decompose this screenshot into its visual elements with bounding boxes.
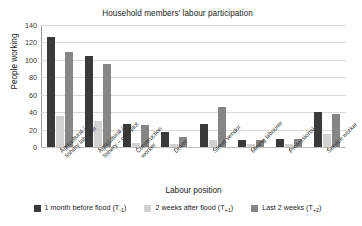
- y-axis-tick-label: 120: [3, 38, 37, 47]
- legend-label: Last 2 weeks (T+2): [262, 203, 321, 213]
- legend-label: 1 month before flood (T-1): [45, 203, 127, 213]
- chart-title: Household members' labour participation: [0, 9, 355, 18]
- x-axis-label: Labour position: [41, 186, 346, 195]
- gridline: [41, 147, 346, 148]
- bar[interactable]: [238, 140, 246, 147]
- y-axis-tick-label: 40: [3, 108, 37, 117]
- y-axis-tick-label: 60: [3, 90, 37, 99]
- y-axis-tick-label: 80: [3, 73, 37, 82]
- bar[interactable]: [47, 37, 55, 147]
- bar[interactable]: [65, 52, 73, 147]
- y-axis-tick-labels: 020406080100120140: [0, 25, 37, 147]
- y-axis-tick-label: 20: [3, 125, 37, 134]
- legend-item[interactable]: Last 2 weeks (T+2): [251, 203, 321, 213]
- legend-swatch: [144, 205, 151, 212]
- y-axis-tick-label: 140: [3, 21, 37, 30]
- legend-item[interactable]: 1 month before flood (T-1): [34, 203, 127, 213]
- legend-label: 2 weeks after flood (T+1): [155, 203, 233, 213]
- bar[interactable]: [276, 139, 284, 147]
- y-axis-tick-label: 100: [3, 55, 37, 64]
- legend-swatch: [251, 205, 258, 212]
- legend-swatch: [34, 205, 41, 212]
- bar-group: [41, 25, 79, 147]
- chart-legend: 1 month before flood (T-1)2 weeks after …: [0, 200, 355, 216]
- y-axis-tick-label: 0: [3, 143, 37, 152]
- legend-item[interactable]: 2 weeks after flood (T+1): [144, 203, 233, 213]
